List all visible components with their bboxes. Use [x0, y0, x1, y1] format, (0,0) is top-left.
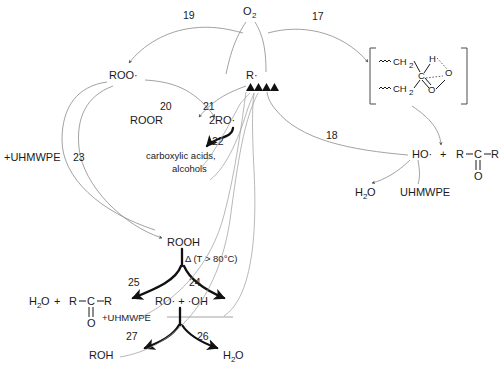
- water-right-group: H 2 O: [355, 186, 376, 201]
- ch2-lower-subscript: 2: [409, 88, 414, 97]
- water-ketone-products: H 2 O + R C R O: [29, 295, 112, 329]
- alkoxy-hydroxyl-label: RO· + ·OH: [155, 295, 208, 307]
- arrowhead-b: [254, 83, 263, 91]
- step-number-17: 17: [312, 10, 324, 22]
- uhmwpe-right-feeder: [418, 160, 420, 184]
- arrow-ho-to-water: [372, 160, 410, 183]
- right-bracket: [461, 48, 467, 104]
- converging-arrowheads-group: [246, 83, 279, 91]
- step-number-25: 25: [128, 276, 140, 288]
- arrowhead-a: [246, 83, 255, 91]
- bl-ketone-oxygen: O: [87, 317, 96, 329]
- intermediate-oxygen-lower: O: [428, 84, 435, 95]
- bl-ketone-r-right: R: [104, 295, 112, 307]
- water-right-label: H: [355, 186, 363, 198]
- intermediate-hydrogen-label: H: [429, 53, 436, 64]
- peroxide-label: ROOR: [130, 114, 163, 126]
- alkyl-radical-label: R·: [246, 69, 258, 81]
- step-number-19: 19: [183, 9, 195, 21]
- step-number-21: 21: [203, 100, 215, 112]
- ketone-carbon: C: [474, 148, 482, 160]
- ketone-r-left: R: [456, 148, 464, 160]
- water-right-tail: O: [367, 186, 376, 198]
- bl-plus-sign: +: [54, 295, 60, 307]
- alcohol-label: ROH: [89, 349, 114, 361]
- squiggle-lower: [379, 87, 391, 89]
- oxygen-subscript: 2: [252, 11, 257, 20]
- return-curve-1: [224, 93, 255, 316]
- step-number-20: 20: [160, 100, 172, 112]
- arrowhead-d: [270, 83, 279, 91]
- water-left-tail: O: [41, 295, 50, 307]
- step-number-24: 24: [189, 276, 201, 288]
- bond-ch2u-c: [414, 61, 420, 72]
- oxygen-label: O: [243, 5, 252, 17]
- peroxy-radical-label: ROO·: [109, 69, 138, 81]
- ketone-oxygen: O: [474, 170, 483, 182]
- step-number-18: 18: [326, 129, 338, 141]
- bracketed-intermediate: CH 2 CH 2 C H O O: [370, 48, 467, 104]
- water-left-label: H: [29, 295, 37, 307]
- step-number-26: 26: [197, 330, 209, 342]
- step-number-23: 23: [73, 151, 85, 163]
- carboxylic-products-line1: carboxylic acids,: [146, 150, 216, 161]
- polymer-left-label: +UHMWPE: [4, 151, 61, 163]
- water-bottom-group: H 2 O: [223, 349, 244, 364]
- bond-c-h: [424, 64, 430, 73]
- bl-ketone-r-left: R: [69, 295, 77, 307]
- intermediate-carbon-label: C: [418, 70, 425, 81]
- water-bottom-tail: O: [235, 349, 244, 361]
- ch2-lower-label: CH: [393, 83, 407, 94]
- reaction-scheme-diagram: O 2 19 17 ROO· R· 20 21 ROOR 2RO· 22 car…: [0, 0, 501, 365]
- hydroperoxide-label: ROOH: [167, 236, 200, 248]
- ketone-r-right: R: [491, 148, 499, 160]
- squiggle-upper: [379, 60, 391, 62]
- ch2-upper-subscript: 2: [409, 61, 414, 70]
- arrowhead-c: [262, 83, 271, 91]
- polymer-mid-label: +UHMWPE: [102, 312, 151, 323]
- o2-right-feeder: [255, 22, 266, 72]
- arrow-17-path: [268, 29, 368, 62]
- thermal-condition-label: Δ (T > 80°C): [185, 253, 237, 264]
- arrow-19-path: [129, 27, 243, 63]
- water-bottom-label: H: [223, 349, 231, 361]
- left-bracket: [370, 48, 376, 104]
- polymer-right-label: UHMWPE: [400, 186, 450, 198]
- products-plus-sign: +: [440, 148, 446, 160]
- oxygen-label-group: O 2: [243, 5, 257, 20]
- arrow-27-path: [145, 325, 179, 348]
- hydroxyl-ketone-products: HO· + R C R O: [412, 148, 499, 182]
- bond-o-o: [436, 80, 445, 89]
- carboxylic-products-line2: alcohols: [172, 163, 207, 174]
- arrow-18-path: [267, 92, 408, 155]
- dotted-c-o: [426, 76, 443, 78]
- bond-ch2l-c: [414, 80, 420, 88]
- hydroxyl-radical-label: HO·: [412, 148, 432, 160]
- step-number-27: 27: [126, 330, 138, 342]
- arrow-intermediate-to-products: [412, 106, 441, 145]
- ch2-upper-label: CH: [393, 56, 407, 67]
- bl-ketone-carbon: C: [87, 295, 95, 307]
- arrow-25-path: [133, 266, 181, 298]
